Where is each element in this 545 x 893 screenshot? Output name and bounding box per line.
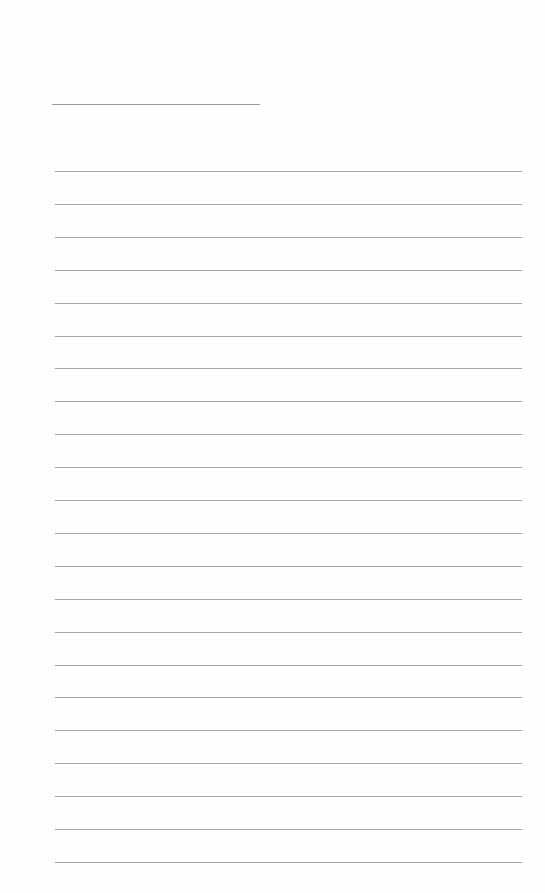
- ruled-line: [55, 401, 522, 402]
- ruled-line: [55, 336, 522, 337]
- ruled-line: [55, 763, 522, 764]
- ruled-line: [55, 467, 522, 468]
- ruled-line: [55, 368, 522, 369]
- ruled-line: [55, 665, 522, 666]
- ruled-line: [55, 697, 522, 698]
- ruled-line: [55, 533, 522, 534]
- ruled-line: [55, 599, 522, 600]
- ruled-line: [55, 829, 522, 830]
- title-underline: [52, 104, 260, 105]
- lined-paper-page: [0, 0, 545, 893]
- ruled-line: [55, 632, 522, 633]
- ruled-line: [55, 303, 522, 304]
- ruled-line: [55, 237, 522, 238]
- ruled-line: [55, 500, 522, 501]
- ruled-line: [55, 566, 522, 567]
- ruled-line: [55, 270, 522, 271]
- ruled-line: [55, 862, 522, 863]
- ruled-line: [55, 434, 522, 435]
- ruled-line: [55, 204, 522, 205]
- ruled-line: [55, 171, 522, 172]
- ruled-line: [55, 730, 522, 731]
- ruled-line: [55, 796, 522, 797]
